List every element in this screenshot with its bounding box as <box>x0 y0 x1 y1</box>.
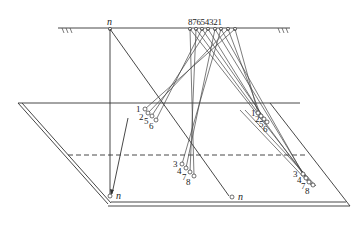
projection-diagram: n 87654321 n n <box>0 0 364 226</box>
cluster-lower-right: 3 4 7 8 <box>293 169 315 196</box>
point-n-left <box>108 194 112 198</box>
arrow-line <box>112 118 128 194</box>
label-source-numbers: 87654321 <box>188 17 222 27</box>
rays-upper-right <box>202 29 267 122</box>
svg-text:8: 8 <box>305 186 310 196</box>
cluster-upper-left: 1 2 5 6 <box>136 104 158 131</box>
n-diagonal-line <box>110 29 229 196</box>
point-n-right <box>230 195 234 199</box>
rays-lower-mid <box>182 29 221 176</box>
label-n-left: n <box>116 190 121 201</box>
cluster-lower-mid: 3 4 7 8 <box>173 159 196 187</box>
label-n-right: n <box>238 191 243 202</box>
svg-text:8: 8 <box>186 177 191 187</box>
ground-hatch-right-icon <box>278 28 288 33</box>
svg-text:2: 2 <box>139 112 144 122</box>
cluster-upper-right: 1 2 5 6 <box>251 108 269 134</box>
svg-text:6: 6 <box>263 124 268 134</box>
ground-hatch-left-icon <box>62 28 72 33</box>
rays-upper-left <box>145 29 235 120</box>
svg-text:6: 6 <box>149 121 154 131</box>
label-n-top: n <box>107 16 112 27</box>
diagram-canvas: n 87654321 n n <box>0 0 364 226</box>
